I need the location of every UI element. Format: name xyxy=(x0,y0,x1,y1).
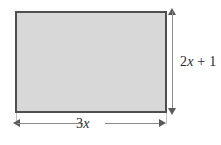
height-operator: + xyxy=(197,54,205,69)
height-variable: x xyxy=(187,54,193,69)
dimension-line-horizontal-left xyxy=(17,123,83,124)
height-label: 2x + 1 xyxy=(180,54,216,70)
shaded-rectangle xyxy=(15,11,167,113)
dimension-line-vertical xyxy=(172,11,173,113)
height-dimension-line xyxy=(167,8,179,116)
height-constant: 1 xyxy=(209,54,216,69)
arrowhead-right-icon xyxy=(159,119,166,127)
width-variable: x xyxy=(83,116,89,131)
width-label: 3x xyxy=(76,116,90,132)
width-dimension-line xyxy=(12,118,170,130)
dimension-line-horizontal-right xyxy=(105,123,163,124)
arrowhead-down-icon xyxy=(168,108,176,115)
geometry-figure: 2x + 1 3x xyxy=(0,0,221,145)
